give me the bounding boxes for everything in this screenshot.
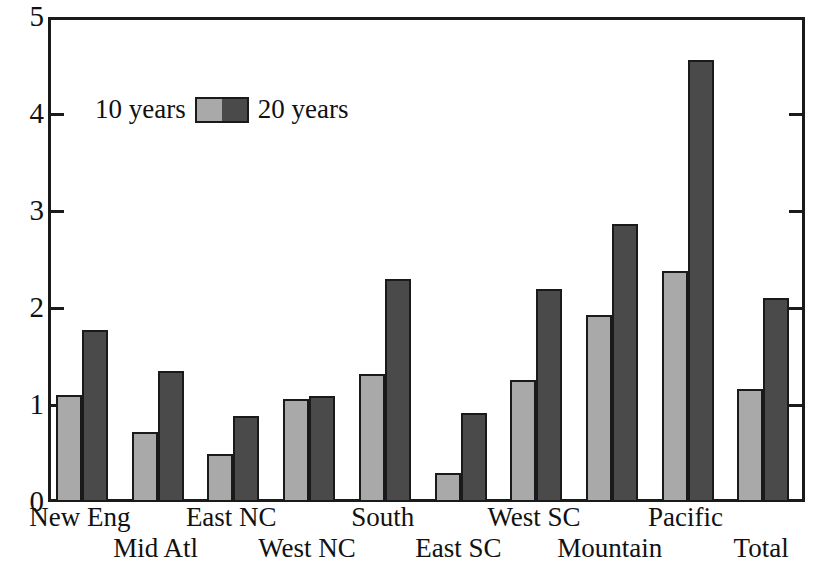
y-tick-label-5: 5 xyxy=(10,2,44,31)
bar-east-sc-10-years xyxy=(435,473,461,502)
bar-west-nc-20-years xyxy=(309,396,335,502)
x-tick-label-new-eng: New Eng xyxy=(29,504,130,531)
bar-east-nc-20-years xyxy=(233,416,259,502)
x-tick-label-west-sc: West SC xyxy=(488,504,581,531)
legend-swatch-20-years xyxy=(222,99,247,121)
x-tick-label-mid-atl: Mid Atl xyxy=(113,535,198,562)
x-tick-label-mountain: Mountain xyxy=(557,535,662,562)
bar-mid-atl-20-years xyxy=(158,371,184,502)
x-tick-label-east-nc: East NC xyxy=(186,504,277,531)
bar-mid-atl-10-years xyxy=(132,432,158,502)
x-axis-tick-labels: New EngMid AtlEast NCWest NCSouthEast SC… xyxy=(0,502,833,567)
y-tick-label-3: 3 xyxy=(10,196,44,225)
bar-east-nc-10-years xyxy=(207,454,233,503)
x-tick-label-pacific: Pacific xyxy=(648,504,723,531)
chart-legend: 10 years 20 years xyxy=(95,96,348,123)
bar-west-sc-10-years xyxy=(510,380,536,502)
x-tick-label-south: South xyxy=(351,504,414,531)
legend-swatch-group xyxy=(195,97,249,123)
x-tick-label-east-sc: East SC xyxy=(415,535,501,562)
bar-pacific-20-years xyxy=(688,60,714,502)
bar-total-10-years xyxy=(737,389,763,502)
y-tick-label-4: 4 xyxy=(10,99,44,128)
y-tick-label-1: 1 xyxy=(10,390,44,419)
bar-new-eng-10-years xyxy=(56,395,82,502)
bar-pacific-10-years xyxy=(662,271,688,502)
bar-east-sc-20-years xyxy=(461,413,487,502)
legend-swatch-10-years xyxy=(197,99,222,121)
legend-label-20-years: 20 years xyxy=(258,96,349,123)
bar-total-20-years xyxy=(763,298,789,502)
bar-south-10-years xyxy=(359,374,385,502)
y-axis-tick-labels: 012345 xyxy=(0,0,44,567)
x-tick-label-west-nc: West NC xyxy=(258,535,356,562)
bar-mountain-10-years xyxy=(586,315,612,502)
bars-layer xyxy=(48,17,805,502)
bar-west-sc-20-years xyxy=(536,289,562,502)
bar-south-20-years xyxy=(385,279,411,502)
bar-mountain-20-years xyxy=(612,224,638,502)
x-tick-label-total: Total xyxy=(734,535,789,562)
bar-new-eng-20-years xyxy=(82,330,108,502)
y-tick-label-2: 2 xyxy=(10,293,44,322)
bar-west-nc-10-years xyxy=(283,399,309,502)
legend-label-10-years: 10 years xyxy=(95,96,186,123)
bar-chart: 012345 New EngMid AtlEast NCWest NCSouth… xyxy=(0,0,833,567)
